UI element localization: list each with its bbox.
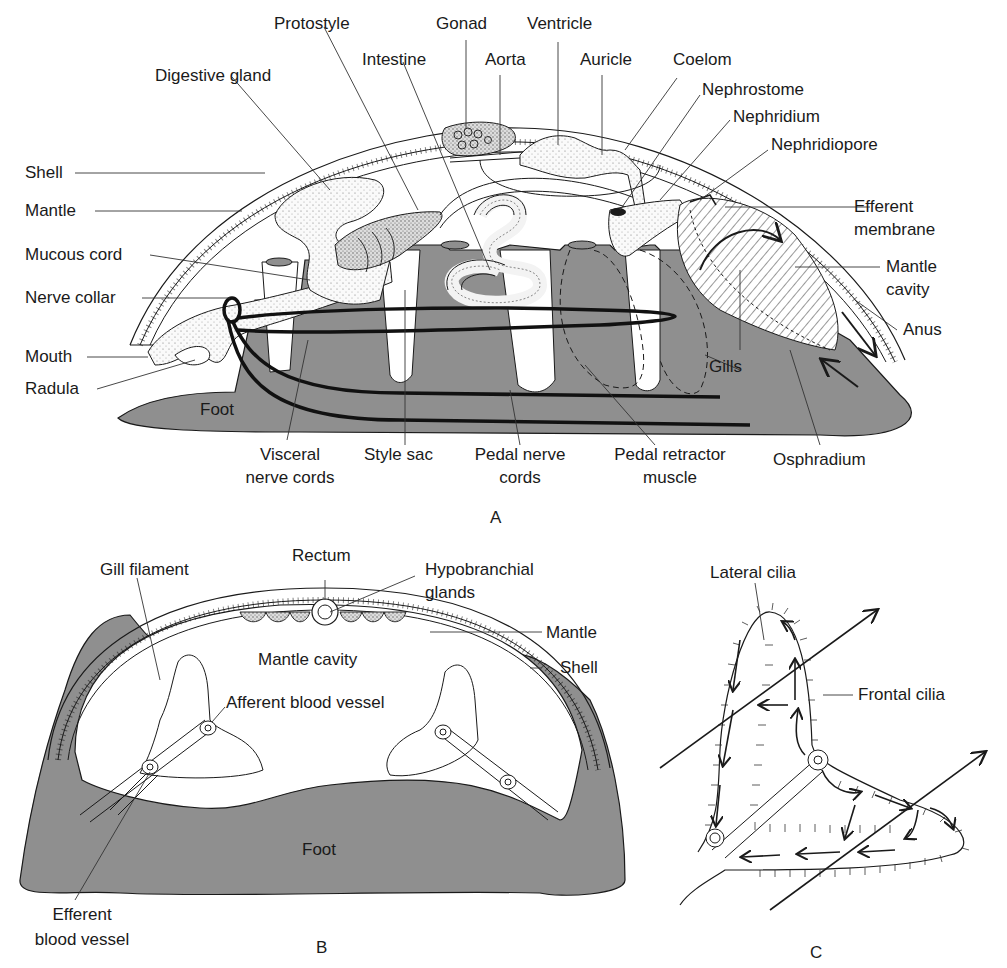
label-mantle-cavity-a-line1: Mantle bbox=[886, 257, 937, 277]
label-gill-filament: Gill filament bbox=[100, 560, 189, 580]
label-nephridiopore: Nephridiopore bbox=[771, 135, 878, 155]
label-coelom: Coelom bbox=[673, 50, 732, 70]
label-protostyle: Protostyle bbox=[274, 14, 350, 34]
label-mantle-a: Mantle bbox=[25, 201, 76, 221]
label-visceral-nerve-cords-line2: nerve cords bbox=[230, 468, 350, 488]
label-anus: Anus bbox=[903, 320, 942, 340]
label-gills-a: Gills bbox=[709, 357, 742, 377]
label-efferent-membrane-line2: membrane bbox=[854, 220, 935, 240]
label-frontal-cilia: Frontal cilia bbox=[858, 685, 945, 705]
label-shell-b: Shell bbox=[560, 658, 598, 678]
panel-letter-b: B bbox=[316, 938, 327, 958]
label-shell-a: Shell bbox=[25, 163, 63, 183]
label-hypobranchial-glands-line2: glands bbox=[425, 583, 475, 603]
label-mouth: Mouth bbox=[25, 347, 72, 367]
panel-letter-c: C bbox=[810, 943, 822, 963]
label-aorta: Aorta bbox=[485, 50, 526, 70]
label-auricle: Auricle bbox=[580, 50, 632, 70]
label-nerve-collar: Nerve collar bbox=[25, 288, 116, 308]
label-efferent-membrane-line1: Efferent bbox=[854, 197, 913, 217]
label-gonad: Gonad bbox=[436, 14, 487, 34]
label-efferent-blood-vessel-line2: blood vessel bbox=[12, 930, 152, 950]
label-mucous-cord: Mucous cord bbox=[25, 245, 122, 265]
label-mantle-cavity-b: Mantle cavity bbox=[258, 650, 357, 670]
label-hypobranchial-glands-line1: Hypobranchial bbox=[425, 560, 534, 580]
label-pedal-nerve-cords-line1: Pedal nerve bbox=[465, 445, 575, 465]
label-foot-a: Foot bbox=[200, 400, 234, 420]
label-style-sac: Style sac bbox=[364, 445, 433, 465]
label-nephridium: Nephridium bbox=[733, 107, 820, 127]
label-intestine: Intestine bbox=[362, 50, 426, 70]
label-foot-b: Foot bbox=[302, 840, 336, 860]
label-ventricle: Ventricle bbox=[527, 14, 592, 34]
mollusc-anatomy-figure: Protostyle Gonad Ventricle Digestive gla… bbox=[0, 0, 1007, 968]
label-digestive-gland: Digestive gland bbox=[155, 66, 271, 86]
label-pedal-retractor-muscle-line1: Pedal retractor bbox=[600, 445, 740, 465]
label-osphradium: Osphradium bbox=[773, 450, 866, 470]
label-radula: Radula bbox=[25, 379, 79, 399]
panel-c bbox=[660, 583, 985, 910]
panel-letter-a: A bbox=[490, 508, 501, 528]
label-visceral-nerve-cords-line1: Visceral bbox=[240, 445, 340, 465]
label-afferent-blood-vessel: Afferent blood vessel bbox=[226, 693, 384, 713]
label-efferent-blood-vessel-line1: Efferent bbox=[22, 905, 142, 925]
label-pedal-nerve-cords-line2: cords bbox=[465, 468, 575, 488]
label-nephrostome: Nephrostome bbox=[702, 80, 804, 100]
label-rectum: Rectum bbox=[292, 546, 351, 566]
label-mantle-b: Mantle bbox=[546, 623, 597, 643]
label-mantle-cavity-a-line2: cavity bbox=[886, 280, 929, 300]
gonad bbox=[442, 122, 515, 156]
label-pedal-retractor-muscle-line2: muscle bbox=[600, 468, 740, 488]
label-lateral-cilia: Lateral cilia bbox=[710, 563, 796, 583]
